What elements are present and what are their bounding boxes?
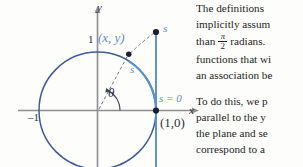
x-axis-label: x bbox=[189, 105, 194, 116]
connector-dashed bbox=[130, 34, 154, 54]
body-text-column: The definitions implicitly assum than π … bbox=[196, 0, 303, 167]
text-line: correspond to a bbox=[196, 141, 303, 157]
fraction-suffix: radians. bbox=[230, 32, 265, 51]
text-line-with-fraction: than π 2 radians. bbox=[196, 32, 303, 51]
fraction-prefix: than bbox=[196, 32, 215, 51]
paragraph-2: To do this, we p parallel to the y the p… bbox=[196, 93, 303, 157]
text-line: The definitions bbox=[196, 0, 303, 16]
paragraph-gap bbox=[196, 83, 303, 93]
text-line: parallel to the y bbox=[196, 109, 303, 125]
text-line: implicitly assum bbox=[196, 16, 303, 32]
point-on-circle-dot bbox=[126, 52, 131, 57]
fraction-denominator: 2 bbox=[221, 42, 226, 51]
text-line: functions that wi bbox=[196, 51, 303, 67]
base-point-label: (1,0) bbox=[160, 116, 185, 129]
arc-length-label: s bbox=[130, 64, 134, 75]
text-line: To do this, we p bbox=[196, 93, 303, 109]
s-equals-zero-label: s = 0 bbox=[159, 93, 182, 104]
y-axis-label: y bbox=[97, 2, 102, 13]
tangent-top-label: s bbox=[163, 23, 167, 34]
textbook-page: y x 1 –1 (x, y) s s s = 0 (1,0) θ The de… bbox=[0, 0, 303, 167]
point-xy-label: (x, y) bbox=[98, 31, 125, 44]
unit-circle-figure: y x 1 –1 (x, y) s s s = 0 (1,0) θ bbox=[0, 0, 200, 167]
paragraph-1: The definitions implicitly assum than π … bbox=[196, 0, 303, 83]
x-tick-negative-one-label: –1 bbox=[28, 112, 39, 123]
tangent-top-dot bbox=[153, 29, 159, 35]
point-one-zero-dot bbox=[153, 107, 159, 113]
y-tick-one-label: 1 bbox=[88, 34, 94, 45]
radius-dashed bbox=[99, 55, 128, 109]
text-line: an association be bbox=[196, 67, 303, 83]
theta-angle-label: θ bbox=[108, 86, 114, 99]
text-line: the plane and se bbox=[196, 125, 303, 141]
pi-over-two-fraction: π 2 bbox=[218, 32, 227, 51]
figure-svg bbox=[0, 0, 200, 167]
fraction-numerator: π bbox=[221, 32, 225, 41]
